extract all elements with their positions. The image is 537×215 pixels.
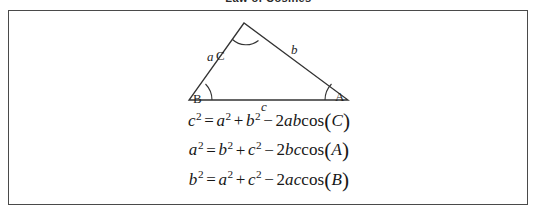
eq1-term1-var: b — [218, 141, 227, 160]
vertex-label-c: C — [216, 49, 225, 62]
eq1-factors: bc — [285, 141, 301, 160]
figure-title-bar: Law of Cosines — [0, 0, 537, 9]
eq2-paren-close: ) — [342, 168, 349, 192]
eq1-lhs-var: a — [189, 141, 198, 160]
eq2-term2-var: c — [248, 170, 256, 189]
eq0-term1-var: a — [216, 111, 225, 130]
figure-panel: C B A a b c c2=a2+b2−2abcos(C) a2=b2+c2−… — [8, 10, 528, 205]
eq2-op-minus: − — [264, 170, 274, 189]
vertex-label-b: B — [193, 92, 202, 105]
eq2-lhs-exp: 2 — [198, 168, 204, 180]
vertex-label-a: A — [335, 90, 344, 103]
eq1-lhs-exp: 2 — [198, 139, 204, 151]
equation-list: c2=a2+b2−2abcos(C) a2=b2+c2−2bccos(A) b2… — [9, 107, 529, 195]
eq2-coefficient: 2 — [276, 170, 285, 189]
eq1-coefficient: 2 — [276, 141, 285, 160]
angle-arc-C — [233, 40, 259, 45]
eq0-op-equals: = — [204, 111, 214, 130]
eq0-term1-exp: 2 — [226, 110, 232, 122]
eq2-term2-exp: 2 — [256, 168, 262, 180]
eq1-term1-exp: 2 — [227, 139, 233, 151]
side-label-b: b — [291, 43, 298, 56]
eq1-term2-var: c — [248, 141, 256, 160]
eq1-term2-exp: 2 — [256, 139, 262, 151]
eq2-term1-exp: 2 — [227, 168, 233, 180]
eq1-cos-arg: A — [331, 141, 341, 160]
eq1-op-minus: − — [264, 141, 274, 160]
eq0-paren-close: ) — [343, 109, 350, 133]
eq0-cos-arg: C — [331, 111, 342, 130]
triangle-diagram: C B A a b c — [9, 11, 529, 116]
eq0-op-plus: + — [234, 111, 244, 130]
eq1-paren-close: ) — [342, 138, 349, 162]
eq0-op-minus: − — [263, 111, 273, 130]
eq0-term2-exp: 2 — [255, 110, 261, 122]
eq1-op-plus: + — [236, 141, 246, 160]
angle-arc-B — [206, 84, 213, 100]
eq2-factors: ac — [285, 170, 301, 189]
eq2-cos-arg: B — [331, 170, 341, 189]
eq1-cos-fn: cos — [301, 141, 324, 160]
eq2-op-plus: + — [236, 170, 246, 189]
eq0-coefficient: 2 — [275, 111, 284, 130]
equation-law-of-cosines-a: a2=b2+c2−2bccos(A) — [9, 136, 529, 165]
equation-law-of-cosines-c: c2=a2+b2−2abcos(C) — [9, 107, 529, 136]
side-label-a: a — [207, 50, 214, 63]
eq0-term2-var: b — [246, 111, 255, 130]
eq0-cos-fn: cos — [301, 111, 324, 130]
eq2-term1-var: a — [218, 170, 227, 189]
eq2-op-equals: = — [206, 170, 216, 189]
eq0-lhs-var: c — [188, 111, 196, 130]
eq0-factors: ab — [284, 111, 301, 130]
eq0-lhs-exp: 2 — [196, 110, 202, 122]
eq2-lhs-var: b — [189, 170, 198, 189]
eq1-op-equals: = — [206, 141, 216, 160]
eq2-cos-fn: cos — [301, 170, 324, 189]
triangle-svg — [9, 11, 529, 116]
page-title: Law of Cosines — [0, 0, 537, 4]
equation-law-of-cosines-b: b2=a2+c2−2accos(B) — [9, 166, 529, 195]
